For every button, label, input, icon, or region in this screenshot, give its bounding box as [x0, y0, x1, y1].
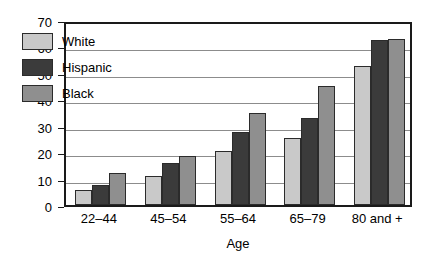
legend-swatch: [22, 59, 53, 76]
y-tick-label: 0: [45, 201, 52, 214]
x-axis-title: Age: [64, 236, 412, 251]
chart-legend: WhiteHispanicBlack: [22, 28, 152, 106]
y-tick-label: 10: [38, 175, 52, 188]
bar: [109, 173, 126, 205]
bar: [249, 113, 266, 206]
bar: [388, 39, 405, 206]
y-tick-label: 20: [38, 148, 52, 161]
legend-item: Black: [22, 80, 152, 106]
legend-label: White: [62, 35, 95, 48]
y-tick-label: 30: [38, 122, 52, 135]
bar: [215, 151, 232, 205]
legend-item: White: [22, 28, 152, 54]
bar: [318, 86, 335, 205]
bar-chart: Percent 010203040506070 WhiteHispanicBla…: [0, 0, 430, 269]
bar: [232, 132, 249, 205]
bar: [179, 156, 196, 205]
x-tick-label: 65–79: [290, 212, 326, 226]
x-tick-label: 45–54: [150, 212, 186, 226]
x-axis-tick-labels: 22–4445–5455–6465–7980 and +: [64, 212, 412, 230]
bar: [354, 66, 371, 205]
y-tick-mark: [58, 207, 64, 208]
bar: [75, 190, 92, 205]
x-tick-label: 55–64: [220, 212, 256, 226]
bar: [284, 138, 301, 205]
legend-label: Black: [62, 87, 94, 100]
legend-label: Hispanic: [62, 61, 112, 74]
legend-item: Hispanic: [22, 54, 152, 80]
bar: [301, 118, 318, 205]
bar: [92, 185, 109, 205]
x-tick-label: 22–44: [81, 212, 117, 226]
x-tick-label: 80 and +: [352, 212, 403, 226]
bar: [162, 163, 179, 205]
bar: [145, 176, 162, 205]
bar: [371, 40, 388, 205]
legend-swatch: [22, 85, 53, 102]
legend-swatch: [22, 33, 53, 50]
